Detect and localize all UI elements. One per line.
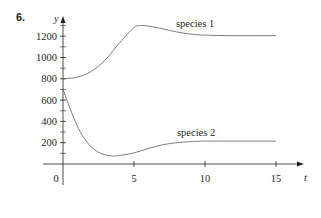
species-2-label: species 2	[177, 127, 215, 138]
population-chart: yt20040060080010001200051015species 1spe…	[0, 0, 321, 218]
y-tick-label: 1000	[36, 52, 57, 63]
series-line-species-1	[63, 25, 276, 78]
x-tick-label: 5	[131, 173, 136, 184]
y-tick-label: 200	[41, 137, 57, 148]
x-axis-label: t	[304, 172, 308, 183]
y-tick-label: 600	[41, 95, 57, 106]
x-tick-label: 10	[200, 173, 211, 184]
y-tick-label: 800	[41, 73, 57, 84]
x-axis-arrow-icon	[297, 162, 304, 167]
x-tick-label: 0	[53, 173, 58, 184]
y-axis-arrow-icon	[61, 16, 66, 23]
species-1-label: species 1	[176, 18, 214, 29]
y-tick-label: 1200	[36, 31, 57, 42]
y-tick-label: 400	[41, 116, 57, 127]
y-axis-label: y	[53, 13, 59, 24]
series-line-species-2	[63, 89, 276, 156]
x-tick-label: 15	[271, 173, 282, 184]
